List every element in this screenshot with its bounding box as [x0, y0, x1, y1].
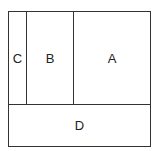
- outer-square: C B A D: [8, 11, 151, 147]
- region-d-label: D: [75, 118, 84, 133]
- region-a-label: A: [108, 51, 117, 66]
- region-d: D: [9, 104, 150, 146]
- region-a: A: [74, 12, 150, 104]
- region-c-label: C: [13, 51, 22, 66]
- region-c: C: [9, 12, 27, 104]
- region-b: B: [27, 12, 74, 104]
- region-b-label: B: [46, 51, 55, 66]
